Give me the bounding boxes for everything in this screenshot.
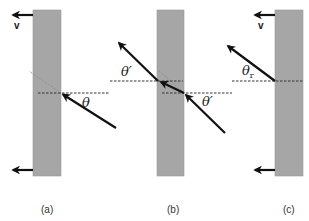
angle-label-b-lower: θ′: [202, 94, 213, 109]
angle-label-c-subscript: r: [250, 71, 254, 80]
panel-c: v θr (c): [228, 10, 303, 215]
angle-label-c-theta: θ: [242, 63, 250, 78]
panel-a: v θ (a): [13, 10, 116, 215]
velocity-label-a: v: [14, 20, 20, 31]
angle-label-a: θ: [82, 95, 90, 110]
panel-label-a: (a): [41, 204, 53, 215]
angle-label-c: θr: [242, 63, 254, 80]
panel-label-c: (c): [283, 204, 295, 215]
panel-b: θ′ θ′ (b): [110, 10, 232, 215]
angle-label-b-upper: θ′: [121, 64, 132, 79]
panel-label-b: (b): [167, 204, 179, 215]
moving-mirror-diagram: v θ (a) θ′ θ′ (b) v θr (c): [0, 0, 309, 221]
mirror-c: [275, 10, 303, 176]
velocity-label-c: v: [258, 20, 264, 31]
